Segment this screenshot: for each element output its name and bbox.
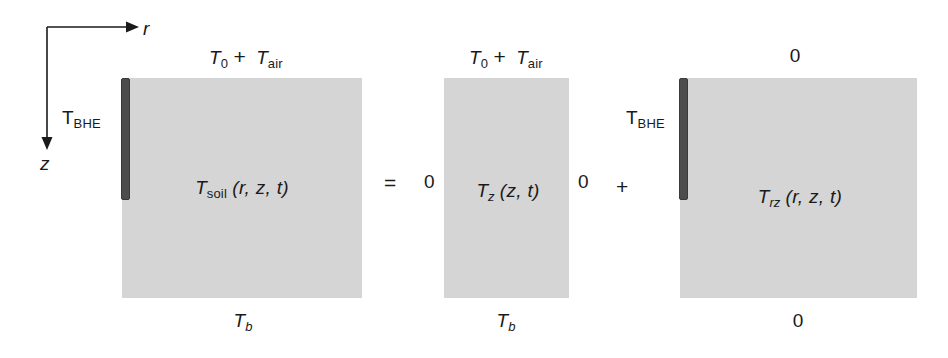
soil-top-operator: +	[233, 45, 245, 68]
equals-sign: =	[384, 172, 396, 193]
z-left-boundary-zero: 0	[424, 172, 435, 191]
z-right-boundary-zero: 0	[578, 172, 589, 191]
rz-center-label: Trz (r, z, t)	[758, 187, 842, 206]
z-center-args: (z, t)	[500, 180, 540, 201]
z-top-boundary-label: T0 + Tair	[469, 46, 543, 67]
plus-sign: +	[616, 176, 628, 197]
rz-left-boundary-label: TBHE	[626, 108, 665, 127]
z-center-label: Tz (z, t)	[476, 181, 539, 200]
z-center-symbol: T	[476, 180, 488, 201]
axis-label-r: r	[143, 19, 149, 38]
soil-center-label: Tsoil (r, z, t)	[195, 178, 289, 197]
soil-center-args: (r, z, t)	[232, 177, 289, 198]
soil-top-subscript-2: air	[268, 56, 283, 71]
soil-top-symbol-2: T	[256, 47, 268, 68]
rz-center-args: (r, z, t)	[786, 186, 843, 207]
soil-bottom-subscript: b	[245, 319, 252, 334]
bhe-bar-rz	[679, 78, 688, 200]
rz-bhe-subscript: BHE	[638, 116, 665, 131]
rz-center-symbol: T	[758, 186, 770, 207]
axis-label-z: z	[40, 154, 50, 173]
z-top-symbol-1: T	[469, 47, 481, 68]
rz-center-subscript: rz	[769, 195, 780, 210]
z-center-subscript: z	[488, 189, 495, 204]
z-top-symbol-2: T	[516, 47, 528, 68]
rz-bhe-symbol: T	[626, 107, 638, 128]
temperature-superposition-diagram: r z T0 + Tair TBHE Tsoil (r, z, t) Tb = …	[0, 0, 948, 358]
z-bottom-boundary-label: Tb	[497, 311, 516, 330]
soil-bhe-subscript: BHE	[74, 116, 101, 131]
bhe-bar-total	[121, 78, 130, 200]
soil-bottom-symbol: T	[234, 310, 246, 331]
soil-bhe-symbol: T	[62, 107, 74, 128]
rz-bottom-boundary-zero: 0	[793, 311, 804, 330]
z-bottom-symbol: T	[497, 310, 509, 331]
soil-top-symbol-1: T	[209, 47, 221, 68]
soil-center-subscript: soil	[207, 186, 227, 201]
soil-center-symbol: T	[195, 177, 207, 198]
soil-bottom-boundary-label: Tb	[234, 311, 253, 330]
soil-top-boundary-label: T0 + Tair	[209, 46, 283, 67]
soil-left-boundary-label: TBHE	[62, 108, 101, 127]
z-bottom-subscript: b	[508, 319, 515, 334]
z-top-operator: +	[493, 45, 505, 68]
z-top-subscript-2: air	[528, 56, 543, 71]
soil-top-subscript-1: 0	[221, 56, 228, 71]
rz-top-boundary-zero: 0	[790, 46, 801, 65]
z-top-subscript-1: 0	[481, 56, 488, 71]
